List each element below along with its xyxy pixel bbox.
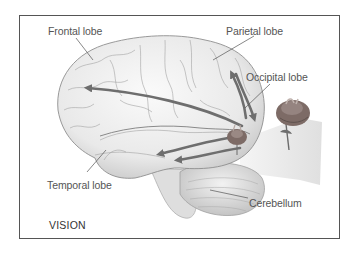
label-occipital-lobe: Occipital lobe [246,72,308,83]
label-frontal-lobe: Frontal lobe [48,26,102,37]
label-cerebellum: Cerebellum [249,198,302,209]
brain-illustration [0,0,357,256]
label-parietal-lobe: Parietal lobe [226,26,283,37]
figure-title: VISION [49,220,86,231]
cerebrum [58,36,265,179]
label-temporal-lobe: Temporal lobe [47,180,112,191]
